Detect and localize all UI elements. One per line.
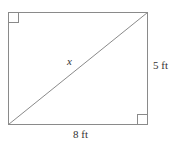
diagonal-line xyxy=(9,13,148,125)
rectangle-diagram: x 5 ft 8 ft xyxy=(0,0,176,148)
right-angle-marker-bottom-right xyxy=(138,115,148,125)
rectangle-svg xyxy=(0,0,176,148)
diagonal-label: x xyxy=(67,56,72,67)
width-label: 8 ft xyxy=(73,129,88,140)
right-angle-marker-top-left xyxy=(9,13,19,23)
height-label: 5 ft xyxy=(153,60,168,71)
